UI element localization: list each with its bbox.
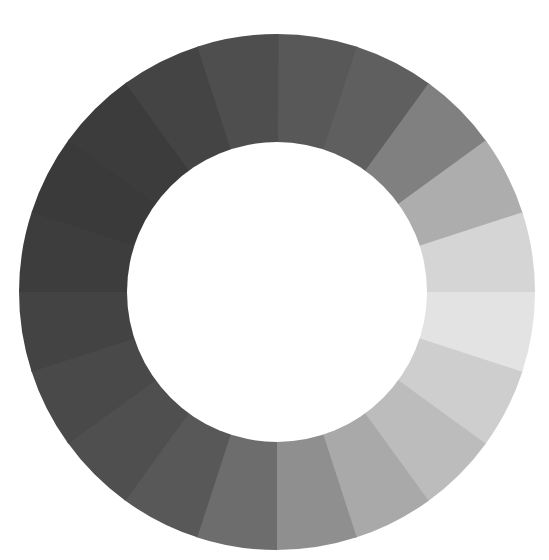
grayscale-ring-canvas	[0, 0, 549, 560]
ring-center-hole	[127, 142, 427, 442]
grayscale-donut-ring	[0, 0, 549, 560]
